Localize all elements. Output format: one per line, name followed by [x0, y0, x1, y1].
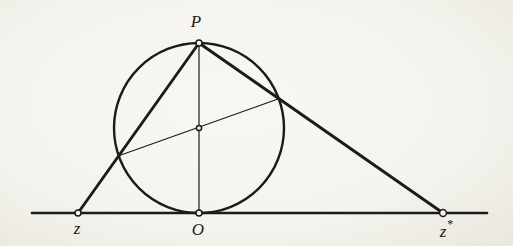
label-point-z-star: z*: [440, 220, 453, 240]
point-marker-P: [196, 40, 202, 46]
label-O-text: O: [192, 220, 204, 239]
label-point-z: z: [74, 220, 81, 237]
point-marker-z: [75, 210, 81, 216]
asterisk-superscript: *: [447, 217, 453, 231]
segment-P-zstar: [199, 43, 443, 213]
label-point-O: O: [192, 221, 204, 238]
point-marker-O: [196, 210, 202, 216]
diagram-svg: [0, 0, 513, 246]
label-point-P: P: [191, 13, 201, 30]
label-z-text: z: [74, 219, 81, 238]
point-marker-center: [196, 125, 201, 130]
label-zstar-text: z: [440, 222, 447, 241]
figure-page: P O z z*: [0, 0, 513, 246]
label-P-text: P: [191, 12, 201, 31]
point-marker-zstar: [440, 210, 447, 217]
